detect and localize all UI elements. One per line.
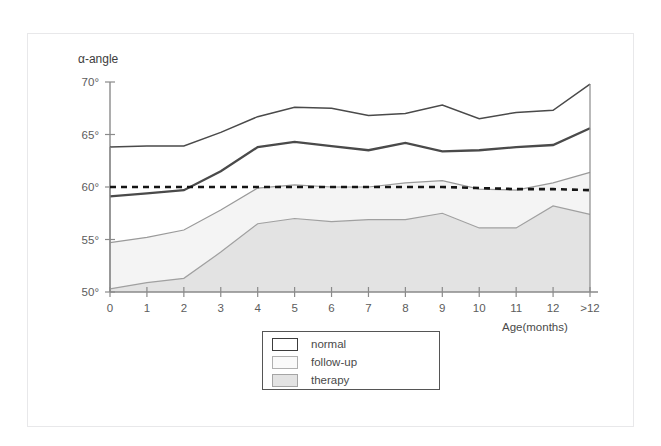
x-tick-label: 2 (181, 302, 187, 314)
x-tick-label: 4 (254, 302, 261, 314)
x-tick-label: 1 (144, 302, 150, 314)
y-tick-label: 55° (82, 234, 99, 246)
legend-item-followup[interactable]: follow-up (272, 354, 439, 371)
followup-swatch-icon (272, 356, 298, 369)
x-tick-label: 8 (402, 302, 408, 314)
x-tick-label: >12 (580, 302, 600, 314)
x-tick-label: 9 (439, 302, 445, 314)
x-tick-label: 3 (218, 302, 224, 314)
legend-label-therapy: therapy (311, 374, 349, 387)
x-axis-title: Age(months) (502, 321, 568, 333)
legend-label-normal: normal (311, 338, 346, 351)
legend-item-therapy[interactable]: therapy (272, 372, 439, 389)
x-tick-label: 7 (365, 302, 371, 314)
y-tick-label: 70° (82, 76, 99, 88)
y-tick-label: 50° (82, 286, 99, 298)
x-tick-label: 0 (107, 302, 113, 314)
x-tick-label: 10 (473, 302, 486, 314)
x-tick-label: 6 (328, 302, 334, 314)
x-tick-label: 12 (547, 302, 560, 314)
x-tick-label: 11 (510, 302, 522, 314)
therapy-swatch-icon (272, 374, 298, 387)
chart-legend: normal follow-up therapy (262, 331, 440, 390)
y-tick-label: 65° (82, 129, 99, 141)
legend-label-followup: follow-up (311, 356, 357, 369)
normal-swatch-icon (272, 338, 298, 351)
y-axis-title: α-angle (78, 52, 119, 66)
legend-item-normal[interactable]: normal (272, 336, 439, 353)
y-tick-label: 60° (82, 181, 99, 193)
x-tick-label: 5 (291, 302, 297, 314)
normal-upper-line (110, 84, 590, 147)
